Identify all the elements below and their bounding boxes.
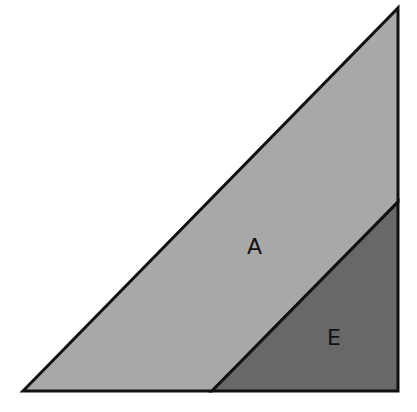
triangle-diagram: A E [0, 0, 417, 412]
label-e: E [327, 325, 341, 350]
label-a: A [247, 234, 262, 259]
